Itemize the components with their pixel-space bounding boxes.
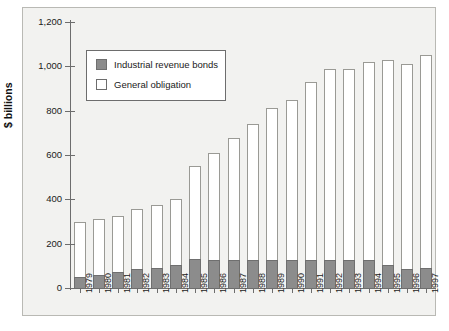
y-axis-tick (65, 66, 75, 67)
bar-column (247, 124, 259, 288)
bar-segment-general-obligation (420, 55, 432, 268)
x-axis-tick (311, 288, 312, 293)
legend-item-general-obligation: General obligation (96, 79, 191, 90)
bar-segment-general-obligation (286, 100, 298, 261)
x-axis-tick-label: 1989 (276, 273, 286, 293)
x-axis-tick (118, 288, 119, 293)
bar-segment-general-obligation (131, 209, 143, 269)
y-axis-tick-labels: 02004006008001,0001,200 (0, 0, 62, 331)
bar-segment-general-obligation (189, 166, 201, 259)
x-axis-tick-label: 1987 (238, 273, 248, 293)
y-axis-tick (65, 155, 75, 156)
bar-column (343, 69, 355, 288)
x-axis-tick (137, 288, 138, 293)
x-axis-tick (195, 288, 196, 293)
y-axis-tick (65, 111, 75, 112)
bar-segment-general-obligation (343, 69, 355, 261)
bar-column (401, 64, 413, 288)
bar-segment-general-obligation (112, 216, 124, 273)
y-axis-tick-label: 800 (46, 106, 62, 116)
bar-column (189, 166, 201, 288)
x-axis-tick (426, 288, 427, 293)
x-axis-tick (99, 288, 100, 293)
x-axis-tick (272, 288, 273, 293)
bar-segment-general-obligation (401, 64, 413, 269)
x-axis-tick-label: 1996 (411, 273, 421, 293)
bar-segment-general-obligation (266, 108, 278, 260)
x-axis-tick-label: 1995 (392, 273, 402, 293)
industrial-swatch-icon (96, 59, 107, 70)
general-swatch-icon (96, 79, 107, 90)
y-axis-tick-label: 1,200 (38, 17, 62, 27)
bar-column (324, 69, 336, 288)
y-axis-tick-label: 400 (46, 194, 62, 204)
y-axis-tick (65, 199, 75, 200)
x-axis-tick-label: 1990 (296, 273, 306, 293)
x-axis-tick-label: 1980 (103, 273, 113, 293)
x-axis-tick (253, 288, 254, 293)
bar-column (208, 153, 220, 288)
bar-segment-general-obligation (324, 69, 336, 261)
x-axis-tick (234, 288, 235, 293)
x-axis-tick (349, 288, 350, 293)
x-axis-tick-label: 1984 (180, 273, 190, 293)
bar-segment-general-obligation (93, 219, 105, 274)
bar-column (420, 55, 432, 288)
bar-segment-general-obligation (247, 124, 259, 260)
bar-segment-general-obligation (305, 82, 317, 260)
x-axis-tick-label: 1981 (122, 273, 132, 293)
x-axis-tick-label: 1991 (315, 273, 325, 293)
bar-column (228, 138, 240, 288)
bar-segment-general-obligation (74, 222, 86, 277)
x-axis-tick (407, 288, 408, 293)
x-axis-tick (330, 288, 331, 293)
x-axis-tick-label: 1982 (141, 273, 151, 293)
y-axis-tick-label: 0 (57, 283, 62, 293)
x-axis-tick-label: 1986 (218, 273, 228, 293)
x-axis-tick (214, 288, 215, 293)
legend-item-industrial-revenue-bonds: Industrial revenue bonds (96, 59, 218, 70)
y-axis-tick (65, 244, 75, 245)
y-axis-tick (65, 288, 75, 289)
x-axis-tick (292, 288, 293, 293)
legend-label-industrial: Industrial revenue bonds (114, 59, 218, 70)
bar-column (286, 100, 298, 288)
y-axis-tick-label: 200 (46, 239, 62, 249)
legend-label-general: General obligation (114, 79, 191, 90)
bar-column (382, 60, 394, 288)
x-axis-tick-label: 1993 (353, 273, 363, 293)
bar-segment-general-obligation (208, 153, 220, 261)
bar-column (363, 62, 375, 288)
bar-segment-general-obligation (151, 205, 163, 268)
chart-figure: $ billions 02004006008001,0001,200 Indus… (0, 0, 449, 331)
x-axis-tick (176, 288, 177, 293)
y-axis-tick-label: 600 (46, 150, 62, 160)
x-axis-tick (369, 288, 370, 293)
x-axis-tick (157, 288, 158, 293)
y-axis-tick (65, 22, 75, 23)
x-axis-tick-label: 1983 (161, 273, 171, 293)
x-axis-tick-label: 1992 (334, 273, 344, 293)
bar-segment-general-obligation (382, 60, 394, 265)
bar-column (305, 82, 317, 288)
x-axis-tick-label: 1988 (257, 273, 267, 293)
x-axis-tick-label: 1997 (430, 273, 440, 293)
x-axis-tick-label: 1985 (199, 273, 209, 293)
x-axis-tick-label: 1979 (84, 273, 94, 293)
bar-column (266, 108, 278, 288)
x-axis-tick (388, 288, 389, 293)
bar-segment-general-obligation (363, 62, 375, 260)
x-axis-tick-label: 1994 (373, 273, 383, 293)
bar-segment-general-obligation (170, 199, 182, 264)
chart-legend: Industrial revenue bonds General obligat… (86, 50, 226, 101)
y-axis-tick-label: 1,000 (38, 61, 62, 71)
x-axis-tick (80, 288, 81, 293)
bar-segment-general-obligation (228, 138, 240, 260)
